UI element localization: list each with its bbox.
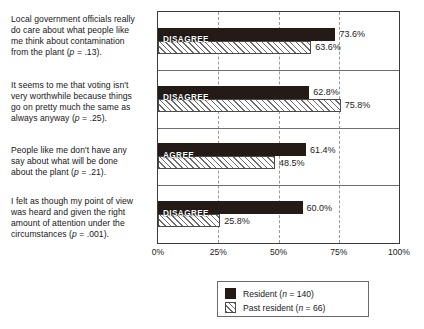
chart-figure: Local government officials reallydo care… — [0, 0, 424, 329]
bar-group-2: 62.8%75.8%DISAGREE — [158, 70, 399, 128]
statement-line: from the plant (p = .13). — [11, 47, 153, 58]
statement-line: circumstances (p = .001). — [11, 229, 153, 240]
value-label-past-resident-3: 48.5% — [279, 158, 305, 168]
bar-resident-2 — [158, 86, 309, 99]
p-symbol: p — [72, 229, 77, 239]
legend-swatch-resident — [225, 288, 236, 299]
value-label-resident-4: 60.0% — [307, 203, 333, 213]
statement-text-4: I felt as though my point of viewwas hea… — [11, 196, 153, 240]
statement-line: Local government officials really — [11, 14, 153, 25]
value-label-resident-3: 61.4% — [310, 145, 336, 155]
bar-group-4: 60.0%25.8%DISAGREE — [158, 185, 399, 243]
statement-text-3: People like me don't have anysay about w… — [11, 145, 153, 178]
statement-line: amount of attention under the — [11, 218, 153, 229]
p-symbol: p — [74, 167, 79, 177]
bar-past-resident-1 — [158, 41, 311, 54]
statement-text-2: It seems to me that voting isn'tvery wor… — [11, 80, 153, 124]
legend-label-resident: Resident (n = 140) — [243, 289, 314, 299]
statement-line: always anyway (p = .25). — [11, 113, 153, 124]
statement-line: about the plant (p = .21). — [11, 167, 153, 178]
value-label-past-resident-4: 25.8% — [224, 216, 250, 226]
statement-line: very worthwhile because things — [11, 91, 153, 102]
x-tick-label: 25% — [210, 247, 227, 257]
legend-item-resident: Resident (n = 140) — [225, 287, 314, 300]
statement-line: People like me don't have any — [11, 145, 153, 156]
statement-line: me think about contamination — [11, 36, 153, 47]
value-label-past-resident-1: 63.6% — [315, 42, 341, 52]
x-tick-label: 0% — [152, 247, 164, 257]
statement-line: I felt as though my point of view — [11, 196, 153, 207]
statement-column: Local government officials reallydo care… — [0, 0, 152, 248]
value-label-resident-1: 73.6% — [339, 29, 365, 39]
plot-inner: 73.6%63.6%DISAGREE62.8%75.8%DISAGREE61.4… — [158, 12, 399, 243]
statement-text-1: Local government officials reallydo care… — [11, 14, 153, 58]
legend-swatch-past-resident — [225, 302, 236, 313]
bar-group-3: 61.4%48.5%AGREE — [158, 128, 399, 186]
statement-line: go on pretty much the same as — [11, 102, 153, 113]
x-axis-ticks: 0%25%50%75%100% — [157, 247, 400, 261]
statement-line: It seems to me that voting isn't — [11, 80, 153, 91]
bar-past-resident-3 — [158, 156, 275, 169]
legend-label-past-resident: Past resident (n = 66) — [243, 303, 325, 313]
statement-line: was heard and given the right — [11, 207, 153, 218]
bar-resident-3 — [158, 143, 306, 156]
p-symbol: p — [75, 113, 80, 123]
x-tick-label: 75% — [330, 247, 347, 257]
x-tick-label: 50% — [270, 247, 287, 257]
value-label-resident-2: 62.8% — [313, 87, 339, 97]
statement-line: say about what will be done — [11, 156, 153, 167]
bar-group-1: 73.6%63.6%DISAGREE — [158, 12, 399, 70]
n-symbol: n — [282, 289, 287, 299]
bar-resident-4 — [158, 201, 303, 214]
legend: Resident (n = 140) Past resident (n = 66… — [217, 281, 369, 317]
legend-item-past-resident: Past resident (n = 66) — [225, 301, 325, 314]
bar-past-resident-2 — [158, 99, 341, 112]
x-tick-label: 100% — [388, 247, 410, 257]
plot-area: 73.6%63.6%DISAGREE62.8%75.8%DISAGREE61.4… — [157, 11, 400, 244]
p-symbol: p — [70, 47, 75, 57]
bar-resident-1 — [158, 28, 335, 41]
bar-past-resident-4 — [158, 214, 220, 227]
value-label-past-resident-2: 75.8% — [345, 100, 371, 110]
statement-line: do care about what people like — [11, 25, 153, 36]
n-symbol: n — [298, 303, 303, 313]
